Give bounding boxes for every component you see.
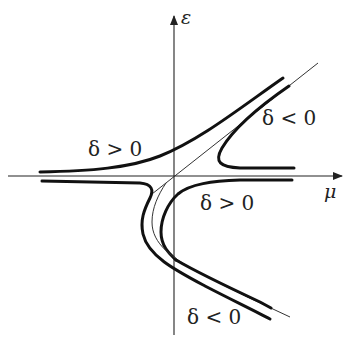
region-label-upper-left: δ > 0 (88, 139, 142, 159)
region-label-lower-right-near: δ > 0 (200, 193, 254, 213)
diagram-canvas (0, 0, 355, 349)
region-label-upper-right: δ < 0 (262, 108, 316, 128)
lower-right-far-curve (176, 260, 271, 308)
region-label-lower-right-far: δ < 0 (187, 307, 241, 327)
bifurcation-diagram: ε μ δ > 0 δ < 0 δ > 0 δ < 0 (0, 0, 355, 349)
epsilon-axis-label: ε (181, 8, 191, 27)
mu-axis-label: μ (324, 182, 336, 201)
upper-left-branch-curve (40, 78, 283, 172)
